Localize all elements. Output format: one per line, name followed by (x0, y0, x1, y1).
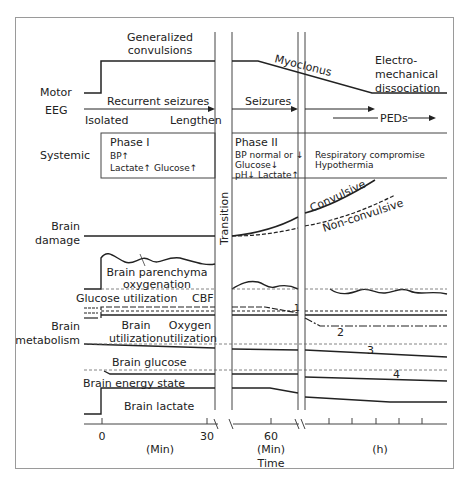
brain-utilization-label-2: utilization (109, 332, 163, 345)
unit-min-2: (Min) (257, 443, 285, 456)
brain-metabolism-label-2: metabolism (15, 334, 80, 347)
phase1-line-2: Lactate↑ Glucose↑ (110, 163, 197, 173)
unit-hours: (h) (372, 443, 388, 456)
brain-utilization-label-1: Brain (122, 319, 151, 332)
emd-label-1: Electro- (375, 54, 417, 67)
cbf-label: CBF (192, 292, 214, 305)
motor-label: Motor (40, 86, 72, 99)
seizure-timeline-diagram: Motor Generalized convulsions Myoclonus … (0, 0, 466, 494)
time-axis (84, 418, 447, 429)
phase1-title: Phase I (110, 136, 150, 149)
tick-0: 0 (99, 430, 106, 443)
phase2-late-1: Respiratory compromise (315, 150, 425, 160)
brain-metabolism-label-1: Brain (51, 320, 80, 333)
phase2-late-2: Hypothermia (315, 160, 373, 170)
emd-label-2: mechanical (375, 68, 438, 81)
systemic-label: Systemic (40, 149, 90, 162)
tick-30: 30 (200, 430, 214, 443)
transition-label: Transition (218, 192, 231, 246)
myoclonus-label: Myoclonus (273, 52, 333, 79)
tick-60: 60 (264, 430, 278, 443)
oxygen-utilization-label-1: Oxygen (169, 319, 211, 332)
glucose-utilization-label: Glucose utilization (76, 292, 177, 305)
isolated-label: Isolated (85, 114, 129, 127)
peds-label: PEDs (380, 112, 408, 125)
number-2-label: 2 (337, 326, 344, 339)
brain-damage-label-1: Brain (51, 220, 80, 233)
brain-glucose-label: Brain glucose (112, 356, 187, 369)
unit-min-1: (Min) (146, 443, 174, 456)
number-3-label: 3 (367, 344, 374, 357)
phase2-title: Phase II (235, 136, 278, 149)
eeg-row: EEG Recurrent seizures Isolated Lengthen… (45, 95, 436, 127)
eeg-label: EEG (45, 104, 67, 117)
parenchyma-label-2: oxygenation (123, 278, 191, 291)
convulsions-label: convulsions (128, 44, 193, 57)
axis-title: Time (257, 457, 285, 470)
oxygen-utilization-label-2: utilization (163, 332, 217, 345)
brain-metabolism-row: Brain metabolism Brain parenchyma oxygen… (15, 254, 447, 414)
seizures-label: Seizures (245, 95, 292, 108)
phase1-line-1: BP↑ (110, 151, 129, 161)
emd-label-3: dissociation (375, 82, 440, 95)
lengthen-label: Lengthen (170, 114, 222, 127)
recurrent-seizures-label: Recurrent seizures (107, 95, 209, 108)
generalized-label: Generalized (127, 31, 193, 44)
motor-row: Motor Generalized convulsions Myoclonus … (40, 31, 447, 99)
phase2-line-3: pH↓ Lactate↑ (235, 170, 299, 180)
systemic-row: Systemic Phase I BP↑ Lactate↑ Glucose↑ P… (40, 133, 447, 180)
brain-lactate-label: Brain lactate (124, 400, 195, 413)
phase2-line-2: Glucose↓ (235, 160, 278, 170)
number-1-label: 1 (294, 303, 300, 313)
brain-damage-label-2: damage (35, 234, 80, 247)
phase2-line-1: BP normal or ↓ (235, 150, 303, 160)
number-4-label: 4 (393, 368, 400, 381)
